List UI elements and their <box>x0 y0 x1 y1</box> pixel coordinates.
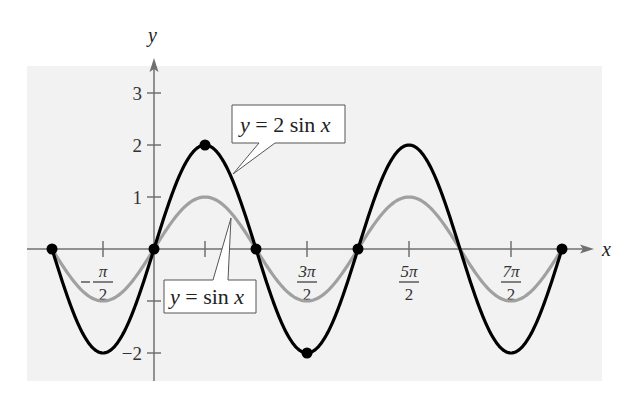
key-point <box>353 244 364 255</box>
key-point <box>302 348 313 359</box>
y-tick-label: 3 <box>133 83 143 104</box>
chart: 321−2 π23π25π27π2 x y y = 2 sin x y = si… <box>0 0 641 394</box>
key-point <box>47 244 58 255</box>
svg-text:y = sin x: y = sin x <box>168 284 244 309</box>
y-axis-label: y <box>146 24 157 47</box>
key-point <box>250 244 261 255</box>
y-tick-label: 2 <box>133 135 143 156</box>
svg-text:7π: 7π <box>502 262 520 281</box>
x-axis-label: x <box>601 238 611 260</box>
svg-text:3π: 3π <box>297 262 316 281</box>
svg-text:π: π <box>99 262 108 281</box>
svg-text:2: 2 <box>405 285 414 304</box>
y-tick-label: 1 <box>133 187 143 208</box>
y-tick-label: −2 <box>122 343 142 364</box>
key-point <box>149 244 160 255</box>
svg-text:5π: 5π <box>400 262 418 281</box>
svg-text:y = 2 sin x: y = 2 sin x <box>238 112 331 137</box>
key-point <box>557 244 568 255</box>
key-point <box>200 140 211 151</box>
